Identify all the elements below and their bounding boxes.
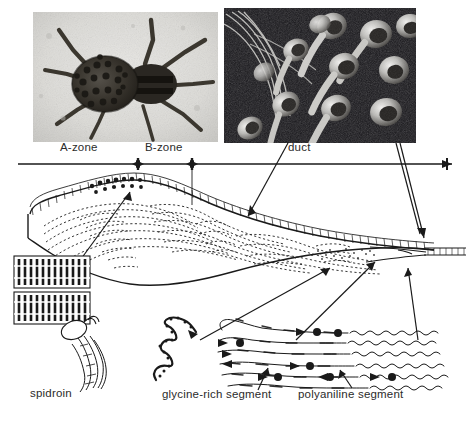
- callout-arrowheads: [68, 192, 412, 379]
- leader-arrowhead: [417, 228, 426, 238]
- silk-gland-figure: A-zone B-zone duct spidroin glycine-rich…: [0, 0, 467, 426]
- beta-sheet-crystal-upper: [14, 256, 90, 288]
- lumen-flow-lines: [44, 204, 380, 274]
- callout-label-polyaniline-segment: polyaniline segment: [298, 388, 403, 400]
- random-coil-beads: [159, 317, 193, 378]
- photo-to-duct-leader-lines: [248, 143, 424, 238]
- callout-label-spidroin: spidroin: [30, 387, 72, 399]
- beta-sheet-crystal-lower: [14, 292, 90, 324]
- spidroin-molecule: [59, 316, 107, 392]
- zone-label-a-zone: A-zone: [60, 141, 98, 153]
- zone-label-b-zone: B-zone: [145, 141, 183, 153]
- line-art-overlay: [0, 0, 467, 426]
- chain-node-dots: [236, 328, 396, 381]
- callout-label-glycine-rich-segment: glycine-rich segment: [162, 388, 271, 400]
- zone-measurement-bar: [18, 158, 452, 170]
- callout-arrows: [62, 192, 418, 390]
- zone-label-duct: duct: [288, 141, 311, 153]
